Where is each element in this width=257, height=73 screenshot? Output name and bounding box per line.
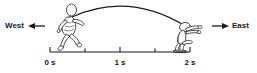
east-arrow: [212, 23, 229, 29]
west-arrow-head: [28, 23, 35, 29]
runner-launch-figure: [57, 4, 84, 50]
timeline-label-1s: 1 s: [114, 59, 125, 67]
west-direction-label: West: [5, 22, 24, 30]
timeline-label-2s: 2 s: [184, 59, 195, 67]
runner-launch-leg-front: [60, 35, 69, 49]
timeline-axis: [50, 47, 190, 52]
west-arrow: [28, 23, 45, 29]
runner-launch-hand-front: [57, 29, 60, 33]
motion-diagram-figure: West East 0 s 1 s 2 s: [0, 0, 257, 73]
runner-landing-hand-upper: [199, 26, 203, 29]
projectile-arc: [72, 6, 187, 27]
timeline-label-0s: 0 s: [44, 59, 55, 67]
east-arrow-head: [222, 23, 229, 29]
runner-launch-head: [67, 4, 77, 16]
runner-landing-hand-lower: [197, 31, 201, 34]
arc-path: [72, 6, 187, 27]
diagram-canvas: [0, 0, 257, 73]
runner-launch-foot-front: [58, 46, 64, 50]
east-direction-label: East: [232, 22, 249, 30]
runner-landing-figure: [174, 21, 202, 52]
